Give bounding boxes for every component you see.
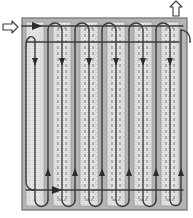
outlet-arrow-glyph <box>170 1 182 16</box>
outlet-arrow-icon <box>170 1 182 16</box>
inlet-arrow-glyph <box>3 21 18 33</box>
inlet-arrow-icon <box>3 21 18 33</box>
serpentine-flow-field-figure <box>0 0 193 218</box>
flow-field-diagram-svg <box>0 0 193 218</box>
